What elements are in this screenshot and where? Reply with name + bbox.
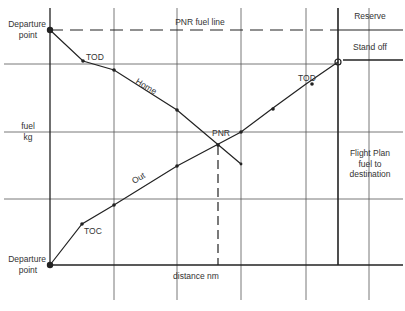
- toc-label: TOC: [84, 226, 102, 236]
- reserve-label: Reserve: [354, 11, 386, 21]
- tod-home-label: TOD: [86, 52, 104, 62]
- flight-plan-label-3: destination: [349, 169, 390, 179]
- home-line: [50, 30, 241, 164]
- tod-out-label: TOD: [298, 73, 316, 83]
- departure-top-label-2: point: [19, 30, 38, 40]
- flight-plan-label-2: fuel to: [358, 159, 381, 169]
- flight-plan-label-1: Flight Plan: [350, 148, 390, 158]
- pnr-fuel-line-label: PNR fuel line: [175, 17, 225, 27]
- out-label: Out: [130, 170, 147, 186]
- x-axis-label: distance nm: [173, 271, 219, 281]
- departure-bottom-label-1: Departure: [8, 254, 46, 264]
- grid-horizontals: [4, 64, 403, 199]
- y-axis-label-1: fuel: [21, 121, 35, 131]
- grid-verticals: [114, 8, 369, 300]
- departure-top-label-1: Departure: [8, 19, 46, 29]
- departure-bottom-label-2: point: [19, 265, 38, 275]
- stand-off-label: Stand off: [353, 42, 388, 52]
- pnr-label: PNR: [212, 128, 230, 138]
- pnr-diagram: Departure point Departure point fuel kg …: [0, 0, 405, 311]
- y-axis-label-2: kg: [24, 132, 33, 142]
- home-label: Home: [134, 76, 159, 96]
